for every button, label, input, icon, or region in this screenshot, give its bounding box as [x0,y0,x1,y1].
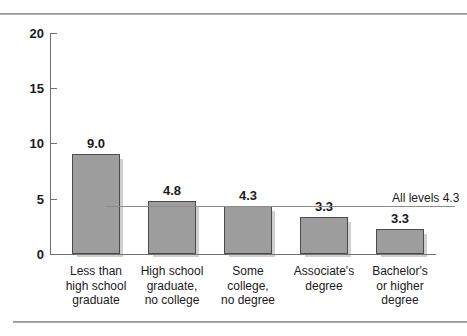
bar-value-high-school-graduate-no-college: 4.8 [148,184,196,197]
x-axis-category-label-1: High school graduate, no college [132,264,212,308]
y-axis-tick-20 [50,33,57,34]
bar-high-school-graduate-no-college [148,201,196,254]
bar-less-than-high-school-graduate [72,154,120,254]
bar-value-some-college-no-degree: 4.3 [224,189,272,202]
y-axis-tick-15 [50,88,57,89]
all-levels-reference-label: All levels 4.3 [392,192,459,204]
bottom-divider-rule [13,321,467,323]
plot-area: 0 5 10 15 20 9.0 4.8 4.3 3.3 3.3 All lev… [50,33,436,255]
y-axis-tick-label-0: 0 [37,248,44,261]
y-axis-tick-label-10: 10 [30,137,44,150]
chart-figure: 0 5 10 15 20 9.0 4.8 4.3 3.3 3.3 All lev… [0,0,467,336]
y-axis-tick-5 [50,199,57,200]
y-axis-tick-label-5: 5 [37,193,44,206]
y-axis-line [50,33,51,255]
all-levels-reference-line [106,206,455,207]
x-axis-category-label-4: Bachelor's or higher degree [360,264,440,308]
top-divider-rule [0,13,467,15]
y-axis-tick-label-15: 15 [30,82,44,95]
x-axis-category-label-2: Some college, no degree [208,264,288,308]
bar-some-college-no-degree [224,206,272,254]
bar-associates-degree [300,217,348,254]
bar-bachelors-or-higher-degree [376,229,424,254]
bar-value-bachelors-or-higher-degree: 3.3 [376,212,424,225]
x-axis-line [50,254,436,255]
x-axis-category-label-0: Less than high school graduate [56,264,136,308]
y-axis-tick-10 [50,143,57,144]
bar-value-less-than-high-school-graduate: 9.0 [72,137,120,150]
y-axis-tick-0 [50,254,57,255]
y-axis-tick-label-20: 20 [30,27,44,40]
x-axis-category-label-3: Associate's degree [284,264,364,293]
